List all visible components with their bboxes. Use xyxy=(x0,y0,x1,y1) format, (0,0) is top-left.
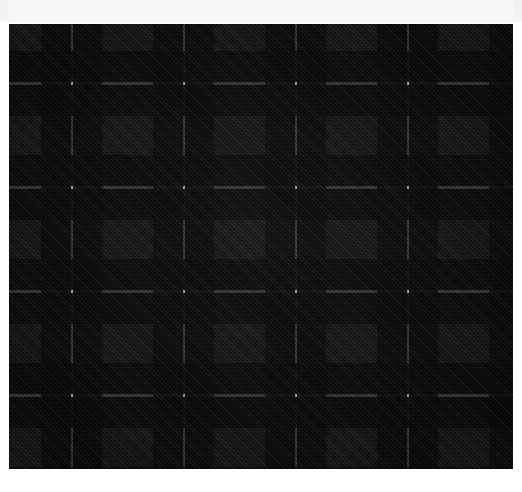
top-panel-surface xyxy=(8,1,514,21)
tartan-fabric-swatch xyxy=(9,24,513,469)
tartan-weft-stripes xyxy=(9,24,513,469)
top-cutoff-panel xyxy=(0,0,522,23)
